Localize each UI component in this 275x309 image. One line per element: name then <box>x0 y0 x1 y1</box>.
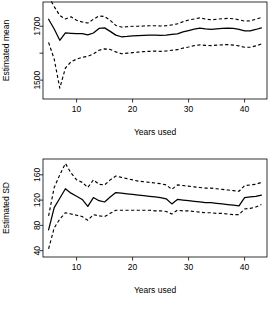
chart-panel-estimated-mean: 1500170010203040Years usedEstimated mean <box>0 0 275 154</box>
confidence-band-curve <box>49 0 262 27</box>
y-axis-tick-label: 80 <box>32 220 42 230</box>
figure-container: 1500170010203040Years usedEstimated mean… <box>0 0 275 309</box>
x-axis-title: Years used <box>134 127 176 137</box>
y-axis-tick-label: 1700 <box>32 17 42 36</box>
estimated-sd-plot: 408012016010203040Years usedEstimated SD <box>0 154 275 309</box>
y-axis-tick-label: 120 <box>32 193 42 207</box>
x-axis-tick-label: 10 <box>72 104 82 114</box>
y-axis-title: Estimated mean <box>1 20 11 82</box>
x-axis-tick-label: 40 <box>240 262 250 272</box>
x-axis-title: Years used <box>134 285 176 295</box>
chart-panel-estimated-sd: 408012016010203040Years usedEstimated SD <box>0 154 275 309</box>
x-axis-tick-label: 30 <box>184 262 194 272</box>
confidence-band-curve <box>49 205 262 249</box>
confidence-band-curve <box>49 42 262 88</box>
y-axis-title: Estimated SD <box>1 182 11 234</box>
plot-frame <box>43 159 267 257</box>
confidence-band-curve <box>49 163 262 215</box>
y-axis-tick-label: 40 <box>32 246 42 256</box>
estimate-curve <box>49 19 262 40</box>
x-axis-tick-label: 10 <box>72 262 82 272</box>
x-axis-tick-label: 30 <box>184 104 194 114</box>
y-axis-tick-label: 160 <box>32 167 42 181</box>
x-axis-tick-label: 20 <box>128 104 138 114</box>
estimate-curve <box>49 189 262 230</box>
x-axis-tick-label: 40 <box>240 104 250 114</box>
y-axis-tick-label: 1500 <box>32 70 42 89</box>
x-axis-tick-label: 20 <box>128 262 138 272</box>
estimated-mean-plot: 1500170010203040Years usedEstimated mean <box>0 0 275 154</box>
